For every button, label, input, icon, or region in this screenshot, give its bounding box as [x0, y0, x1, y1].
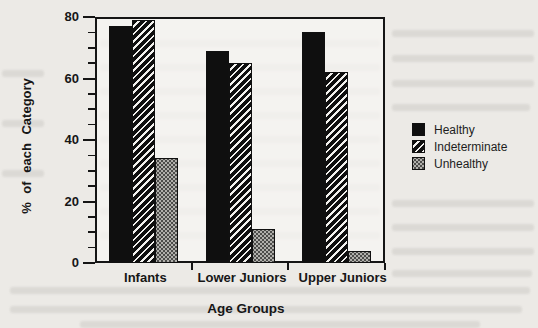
y-axis-major-tick [83, 262, 95, 264]
y-axis-tick-label: 40 [47, 132, 79, 147]
y-axis-major-tick [83, 78, 95, 80]
category-label: Infants [124, 270, 167, 285]
bar-healthy-upper-juniors [302, 32, 325, 263]
scan-text-smudge [392, 55, 534, 62]
scan-text-smudge [392, 30, 534, 37]
x-axis-title: Age Groups [207, 301, 284, 316]
legend-row-indeterminate: Indeterminate [412, 138, 507, 155]
bar-unhealthy-infants [155, 158, 178, 263]
legend-row-healthy: Healthy [412, 121, 507, 138]
bar-unhealthy-lower-juniors [252, 229, 275, 263]
y-axis-minor-tick [88, 170, 95, 172]
y-axis-tick-label: 20 [47, 194, 79, 209]
bar-unhealthy-upper-juniors [348, 251, 371, 263]
category-label: Upper Juniors [299, 270, 387, 285]
legend-row-unhealthy: Unhealthy [412, 155, 507, 172]
y-axis-major-tick [83, 139, 95, 141]
x-axis-tick [287, 263, 289, 270]
legend-label: Healthy [434, 123, 475, 137]
legend-swatch-indeterminate [412, 140, 425, 153]
category-label: Lower Juniors [198, 270, 287, 285]
y-axis-minor-tick [88, 231, 95, 233]
y-axis-minor-tick [88, 216, 95, 218]
y-axis-tick-label: 60 [47, 71, 79, 86]
y-axis-tick-label: 0 [47, 255, 79, 270]
scan-text-smudge [80, 321, 480, 328]
bar-healthy-lower-juniors [206, 51, 229, 263]
y-axis-minor-tick [88, 62, 95, 64]
scan-text-smudge [392, 248, 534, 255]
y-axis-minor-tick [88, 32, 95, 34]
scan-text-smudge [10, 287, 530, 294]
y-axis-minor-tick [88, 124, 95, 126]
x-axis-tick [384, 263, 386, 270]
y-axis-minor-tick [88, 47, 95, 49]
y-axis-minor-tick [88, 185, 95, 187]
y-axis-minor-tick [88, 155, 95, 157]
scan-text-smudge [392, 224, 534, 231]
scan-text-smudge [392, 104, 530, 111]
x-axis-tick [191, 263, 193, 270]
bar-healthy-infants [109, 26, 132, 263]
scan-text-smudge [392, 80, 534, 87]
scan-text-smudge [392, 270, 532, 277]
legend-label: Indeterminate [434, 140, 507, 154]
y-axis-major-tick [83, 16, 95, 18]
legend-label: Unhealthy [434, 157, 488, 171]
y-axis-minor-tick [88, 108, 95, 110]
bar-indeterminate-lower-juniors [229, 63, 252, 263]
bar-indeterminate-infants [132, 20, 155, 263]
legend: HealthyIndeterminateUnhealthy [412, 121, 507, 172]
y-axis-minor-tick [88, 247, 95, 249]
y-axis-minor-tick [88, 93, 95, 95]
legend-swatch-healthy [412, 123, 425, 136]
y-axis-major-tick [83, 201, 95, 203]
legend-swatch-unhealthy [412, 157, 425, 170]
scan-text-smudge [2, 70, 44, 77]
bar-indeterminate-upper-juniors [325, 72, 348, 263]
scan-text-smudge [392, 200, 534, 207]
y-axis-tick-label: 80 [47, 9, 79, 24]
y-axis-title: % of each Category [19, 78, 34, 214]
